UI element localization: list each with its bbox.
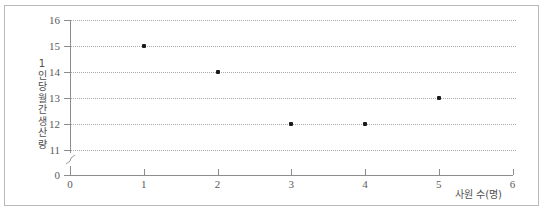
y-axis-tick — [64, 175, 70, 176]
y-axis-title-char: 량 — [34, 139, 50, 151]
x-axis-tick-label: 3 — [279, 179, 303, 190]
x-axis-line — [70, 175, 513, 176]
y-axis-tick-label: 0 — [34, 170, 60, 181]
y-axis-title-char: 생 — [34, 116, 50, 128]
gridline — [70, 72, 516, 73]
x-axis-tick-label: 4 — [353, 179, 377, 190]
y-axis-tick — [64, 72, 70, 73]
chart-figure: 1615141312110 0123456 1인당월간생산량 사원 수(명) — [0, 0, 543, 211]
data-point — [216, 70, 220, 74]
y-axis-title-char: 산 — [34, 127, 50, 139]
y-axis-tick-label: 15 — [34, 41, 60, 52]
y-axis-tick — [64, 124, 70, 125]
gridline — [70, 98, 516, 99]
x-axis-tick-label: 0 — [58, 179, 82, 190]
y-axis-break-icon — [65, 153, 76, 166]
x-axis-tick — [70, 169, 71, 175]
x-axis-tick-label: 1 — [132, 179, 156, 190]
x-axis-tick-label: 2 — [206, 179, 230, 190]
y-axis-tick — [64, 20, 70, 21]
x-axis-tick — [291, 169, 292, 175]
y-axis-title-char: 간 — [34, 104, 50, 116]
y-axis-tick — [64, 98, 70, 99]
y-axis-title-char: 월 — [34, 93, 50, 105]
x-axis-tick-label: 6 — [501, 179, 525, 190]
y-axis-title-char: 1 — [34, 58, 50, 70]
gridline — [70, 150, 516, 151]
y-axis-title-char: 인 — [34, 70, 50, 82]
y-axis-tick-label: 16 — [34, 15, 60, 26]
x-axis-tick-label: 5 — [427, 179, 451, 190]
y-axis-line — [70, 20, 71, 175]
data-point — [437, 96, 441, 100]
data-point — [289, 122, 293, 126]
y-axis-tick — [64, 46, 70, 47]
x-axis-tick — [513, 169, 514, 175]
x-axis-tick — [144, 169, 145, 175]
y-axis-title-char: 당 — [34, 81, 50, 93]
gridline — [70, 20, 516, 21]
x-axis-tick — [365, 169, 366, 175]
data-point — [142, 44, 146, 48]
y-axis-title: 1인당월간생산량 — [34, 58, 50, 150]
x-axis-title: 사원 수(명) — [455, 186, 502, 201]
y-axis-tick — [64, 150, 70, 151]
gridline — [70, 46, 516, 47]
x-axis-tick — [439, 169, 440, 175]
plot-area: 1615141312110 0123456 — [0, 0, 543, 211]
data-point — [363, 122, 367, 126]
x-axis-tick — [218, 169, 219, 175]
